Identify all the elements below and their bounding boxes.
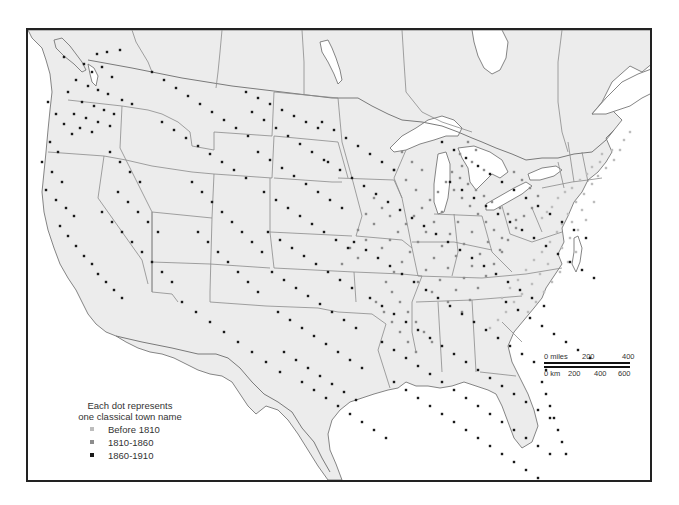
town-dot-1810-1860: [407, 311, 409, 313]
town-dot-1860-1910: [369, 153, 371, 155]
town-dot-1860-1910: [191, 181, 193, 183]
town-dot-1860-1910: [113, 113, 115, 115]
town-dot-1860-1910: [343, 319, 345, 321]
town-dot-1860-1910: [93, 105, 95, 107]
town-dot-1860-1910: [75, 245, 77, 247]
town-dot-1860-1910: [121, 99, 123, 101]
town-dot-1860-1910: [531, 297, 533, 299]
town-dot-1810-1860: [449, 233, 451, 235]
town-dot-1860-1910: [279, 239, 281, 241]
town-dot-1860-1910: [437, 297, 439, 299]
town-dot-before-1810: [547, 263, 549, 265]
town-dot-1860-1910: [489, 413, 491, 415]
town-dot-1860-1910: [549, 453, 551, 455]
town-dot-1860-1910: [489, 445, 491, 447]
town-dot-1860-1910: [473, 197, 475, 199]
town-dot-1860-1910: [465, 397, 467, 399]
town-dot-before-1810: [521, 293, 523, 295]
town-dot-1810-1860: [425, 231, 427, 233]
town-dot-1810-1860: [471, 161, 473, 163]
town-dot-before-1810: [605, 167, 607, 169]
town-dot-1860-1910: [109, 151, 111, 153]
town-dot-before-1810: [599, 161, 601, 163]
town-dot-1860-1910: [185, 137, 187, 139]
town-dot-1860-1910: [65, 207, 67, 209]
town-dot-1860-1910: [251, 241, 253, 243]
town-dot-1860-1910: [525, 437, 527, 439]
town-dot-1860-1910: [311, 151, 313, 153]
town-dot-1860-1910: [75, 79, 77, 81]
town-dot-1810-1860: [421, 169, 423, 171]
town-dot-1860-1910: [119, 49, 121, 51]
town-dot-before-1810: [541, 217, 543, 219]
town-dot-1810-1860: [389, 239, 391, 241]
town-dot-1860-1910: [489, 377, 491, 379]
town-dot-1860-1910: [441, 413, 443, 415]
town-dot-1860-1910: [519, 289, 521, 291]
town-dot-1810-1860: [439, 279, 441, 281]
town-dot-1860-1910: [581, 269, 583, 271]
town-dot-before-1810: [611, 149, 613, 151]
town-dot-1810-1860: [373, 223, 375, 225]
town-dot-1810-1860: [397, 231, 399, 233]
town-dot-1860-1910: [513, 393, 515, 395]
town-dot-1860-1910: [271, 271, 273, 273]
town-dot-1860-1910: [119, 161, 121, 163]
town-dot-1860-1910: [45, 189, 47, 191]
town-dot-1860-1910: [447, 241, 449, 243]
town-dot-1810-1860: [405, 179, 407, 181]
legend-item-1860-1910: 1860-1910: [90, 449, 200, 461]
town-dot-1860-1910: [429, 373, 431, 375]
town-dot-1810-1860: [521, 179, 523, 181]
town-dot-1860-1910: [63, 123, 65, 125]
town-dot-before-1810: [577, 229, 579, 231]
scale-bar-km-line: [544, 366, 630, 368]
town-dot-1860-1910: [315, 263, 317, 265]
town-dot-1860-1910: [509, 221, 511, 223]
town-dot-1860-1910: [393, 169, 395, 171]
town-dot-1860-1910: [221, 211, 223, 213]
town-dot-1860-1910: [85, 117, 87, 119]
town-dot-1860-1910: [121, 231, 123, 233]
town-dot-1860-1910: [71, 133, 73, 135]
town-dot-1860-1910: [425, 289, 427, 291]
town-dot-1860-1910: [417, 397, 419, 399]
town-dot-1860-1910: [313, 389, 315, 391]
town-dot-1860-1910: [381, 305, 383, 307]
town-dot-1860-1910: [275, 199, 277, 201]
town-dot-1810-1860: [405, 223, 407, 225]
town-dot-1860-1910: [106, 51, 108, 53]
town-dot-1810-1860: [415, 321, 417, 323]
scale-miles-tick: 200: [582, 352, 595, 361]
town-dot-1860-1910: [299, 143, 301, 145]
town-dot-1860-1910: [565, 453, 567, 455]
town-dot-1860-1910: [201, 191, 203, 193]
town-dot-before-1810: [564, 191, 566, 193]
town-dot-1860-1910: [435, 233, 437, 235]
town-dot-1860-1910: [387, 201, 389, 203]
town-dot-1860-1910: [161, 271, 163, 273]
town-dot-1860-1910: [337, 405, 339, 407]
town-dot-1810-1860: [507, 213, 509, 215]
town-dot-1860-1910: [497, 213, 499, 215]
town-dot-before-1810: [501, 297, 503, 299]
town-dot-1810-1860: [433, 221, 435, 223]
town-dot-1860-1910: [537, 205, 539, 207]
town-dot-1860-1910: [117, 191, 119, 193]
town-dot-1860-1910: [337, 351, 339, 353]
town-dot-1860-1910: [91, 71, 93, 73]
town-dot-1860-1910: [521, 229, 523, 231]
town-dot-before-1810: [575, 251, 577, 253]
town-dot-1860-1910: [325, 343, 327, 345]
town-dot-1860-1910: [471, 257, 473, 259]
town-dot-1860-1910: [197, 231, 199, 233]
town-dot-1860-1910: [281, 109, 283, 111]
legend-item-1810-1860: 1810-1860: [90, 436, 200, 448]
town-dot-1860-1910: [83, 63, 85, 65]
legend-title-line2: one classical town name: [60, 411, 200, 422]
town-dot-before-1810: [569, 237, 571, 239]
town-dot-before-1810: [629, 131, 631, 133]
town-dot-1860-1910: [525, 469, 527, 471]
town-dot-1860-1910: [299, 215, 301, 217]
town-dot-1810-1860: [483, 169, 485, 171]
